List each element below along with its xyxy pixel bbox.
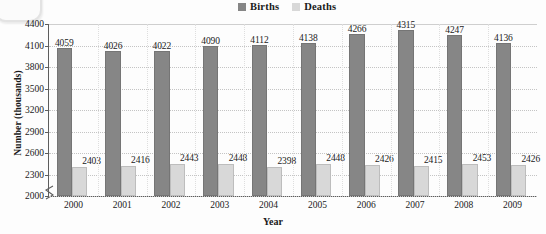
bar-deaths[interactable]: 2416	[121, 166, 136, 196]
bar-group: 431524152007	[391, 24, 440, 196]
bar-value-label-births: 4266	[348, 24, 367, 34]
x-tick-label: 2005	[308, 200, 327, 210]
y-tick-label: 3800	[25, 62, 44, 72]
bar-deaths[interactable]: 2415	[414, 166, 429, 196]
bar-deaths[interactable]: 2426	[365, 165, 380, 196]
x-tick-label: 2007	[405, 200, 424, 210]
bar-group: 405924032000	[49, 24, 98, 196]
bar-deaths[interactable]: 2403	[72, 167, 87, 196]
bar-value-label-births: 4315	[397, 20, 416, 30]
legend-swatch-births	[238, 3, 246, 11]
x-tick-label: 2002	[161, 200, 180, 210]
legend-label-deaths: Deaths	[304, 2, 336, 13]
bar-births[interactable]: 4022	[154, 51, 169, 196]
y-axis-title: Number (thousands)	[13, 48, 23, 178]
bar-group: 411223982004	[244, 24, 293, 196]
x-tick-label: 2001	[113, 200, 132, 210]
bar-value-label-births: 4136	[494, 33, 513, 43]
bar-births[interactable]: 4112	[252, 45, 267, 196]
bar-deaths[interactable]: 2398	[267, 167, 282, 196]
x-tick-label: 2008	[454, 200, 473, 210]
bar-value-label-births: 4026	[104, 41, 123, 51]
y-tick-label: 2600	[25, 148, 44, 158]
x-axis-title: Year	[0, 216, 546, 227]
bar-group: 424724532008	[439, 24, 488, 196]
bar-group: 413824482005	[293, 24, 342, 196]
x-tick-label: 2004	[259, 200, 278, 210]
legend-label-births: Births	[250, 2, 279, 13]
bar-deaths[interactable]: 2448	[218, 164, 233, 196]
y-tick-label: 4400	[25, 19, 44, 29]
bar-deaths[interactable]: 2426	[511, 165, 526, 196]
bar-value-label-births: 4022	[153, 41, 172, 51]
bar-value-label-deaths: 2426	[521, 154, 540, 164]
bar-value-label-births: 4112	[250, 35, 268, 45]
bar-births[interactable]: 4090	[203, 46, 218, 196]
legend-swatch-deaths	[292, 3, 300, 11]
bar-births[interactable]: 4266	[349, 34, 364, 196]
x-tick-label: 2009	[503, 200, 522, 210]
bar-value-label-births: 4059	[55, 38, 74, 48]
y-tick-label: 2300	[25, 170, 44, 180]
bar-births[interactable]: 4138	[301, 43, 316, 196]
bar-group: 402224432002	[147, 24, 196, 196]
bar-births[interactable]: 4247	[447, 35, 462, 196]
bar-deaths[interactable]: 2443	[170, 164, 185, 196]
y-tick-label: 2900	[25, 127, 44, 137]
bar-group: 426624262006	[342, 24, 391, 196]
legend-entry-births: Births	[238, 2, 279, 13]
bar-value-label-births: 4247	[445, 25, 464, 35]
plot-area: 2000230026002900320035003800410044004059…	[48, 24, 537, 197]
bar-group: 409024482003	[195, 24, 244, 196]
x-tick-label: 2000	[64, 200, 83, 210]
bar-births[interactable]: 4136	[496, 43, 511, 196]
bar-value-label-births: 4090	[201, 36, 220, 46]
y-tick-label: 2000	[25, 191, 44, 201]
y-tick-label: 4100	[25, 41, 44, 51]
bar-group: 413624262009	[488, 24, 537, 196]
bar-deaths[interactable]: 2448	[316, 164, 331, 196]
x-tick-label: 2006	[357, 200, 376, 210]
bar-chart: Births Deaths Number (thousands) 2000230…	[0, 0, 546, 234]
gridline	[49, 196, 537, 197]
chart-legend: Births Deaths	[238, 2, 336, 13]
y-tick-label: 3500	[25, 84, 44, 94]
bar-births[interactable]: 4315	[398, 30, 413, 196]
bar-deaths[interactable]: 2453	[462, 164, 477, 196]
legend-entry-deaths: Deaths	[292, 2, 336, 13]
y-tick-mark	[45, 196, 49, 197]
bar-births[interactable]: 4026	[105, 51, 120, 196]
bar-births[interactable]: 4059	[57, 48, 72, 196]
bar-group: 402624162001	[98, 24, 147, 196]
y-tick-label: 3200	[25, 105, 44, 115]
bar-value-label-births: 4138	[299, 33, 318, 43]
x-tick-label: 2003	[210, 200, 229, 210]
